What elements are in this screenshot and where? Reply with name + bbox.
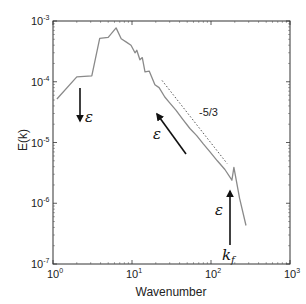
epsilon-label-3: ε [215,201,223,219]
y-tick-label: 10-6 [31,196,50,209]
x-axis-ticks: 100101102103 [47,21,300,280]
y-tick-label: 10-5 [31,136,50,149]
slope-reference-line [162,80,227,163]
epsilon-label-2: ε [153,125,161,143]
arrow-upleft-epsilon [157,114,186,154]
kf-sub: f [230,254,237,265]
y-tick-label: 10-3 [31,14,50,27]
y-axis-label: E(k) [16,129,30,151]
kf-main: k [222,246,231,264]
energy-spectrum-chart: 100101102103 10-310-410-510-610-7 -5/3 ε… [0,0,306,304]
x-axis-label: Wavenumber [136,285,207,299]
x-tick-label: 102 [205,267,221,280]
spectrum-curve [57,28,246,226]
x-tick-label: 103 [284,267,300,280]
y-tick-label: 10-4 [31,75,50,88]
minor-ticks [53,21,290,264]
epsilon-label-1: ε [85,108,93,126]
x-tick-label: 101 [126,267,142,280]
plot-frame [53,21,290,264]
x-tick-label: 100 [47,267,63,280]
slope-label: -5/3 [199,106,218,118]
